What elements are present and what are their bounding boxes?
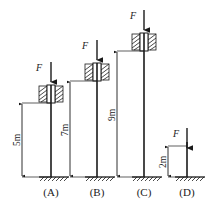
case-a-base-support [39,177,69,181]
case-d-force-label: F [172,128,180,139]
case-c-base-support [132,177,162,181]
case-c-group: F [107,10,162,199]
case-label-c: (C) [137,186,152,199]
case-c-length-label: 9m [107,108,117,121]
figure-canvas: F [0,0,211,206]
case-label-d: (D) [179,186,195,199]
case-c-force-label: F [129,10,137,21]
case-b-dimension [70,81,97,177]
case-a-force-label: F [35,62,43,73]
case-d-group: F 2m (D) [158,128,205,199]
case-b-force-label: F [81,40,89,51]
case-d-base-support [175,177,205,181]
case-d-dimension [168,146,187,177]
case-d-length-label: 2m [158,155,168,168]
case-label-a: (A) [43,186,59,199]
case-a-length-label: 5m [12,133,22,146]
column-buckling-figure: F [0,0,211,206]
case-b-base-support [85,177,115,181]
case-c-dimension [117,51,144,177]
case-b-length-label: 7m [60,123,70,136]
case-label-b: (B) [90,186,105,199]
case-a-dimension [22,103,51,177]
